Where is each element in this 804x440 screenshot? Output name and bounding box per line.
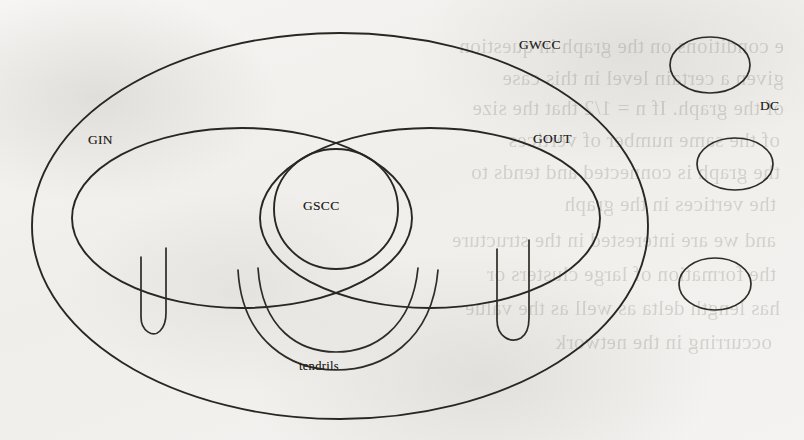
disconnected-component-1 bbox=[670, 37, 750, 93]
label-dc: DC bbox=[760, 98, 779, 114]
label-gout: GOUT bbox=[533, 131, 572, 147]
tendril-tube-outer-arc bbox=[238, 270, 438, 370]
gout-ellipse bbox=[260, 128, 600, 308]
gin-ellipse bbox=[72, 128, 412, 308]
tendril-finger-right bbox=[497, 240, 529, 340]
label-gscc: GSCC bbox=[303, 198, 339, 214]
label-gin: GIN bbox=[88, 132, 113, 148]
disconnected-component-3 bbox=[679, 258, 751, 310]
gwcc-ellipse bbox=[32, 33, 648, 419]
disconnected-component-2 bbox=[697, 138, 773, 190]
tendril-tube-inner-arc bbox=[258, 268, 418, 352]
label-tendrils: tendrils bbox=[299, 359, 339, 374]
bow-tie-diagram-svg bbox=[0, 0, 804, 440]
figure-page: e conditions on the graph in questiongiv… bbox=[0, 0, 804, 440]
label-gwcc: GWCC bbox=[519, 37, 561, 53]
